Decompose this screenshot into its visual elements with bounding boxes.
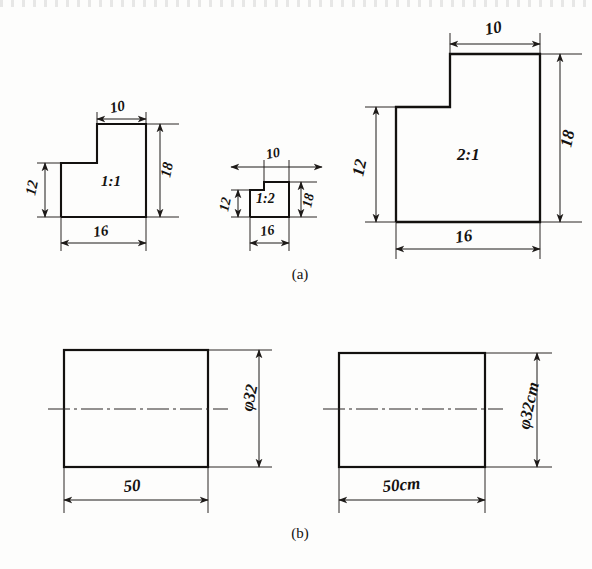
shape-outline: [61, 124, 146, 217]
scale-label-1-1: 1:1: [101, 173, 121, 189]
cylinder-body-rect: [339, 353, 485, 467]
dimension-lines: [64, 350, 259, 500]
dimension-label-diameter: φ32cm: [514, 380, 543, 431]
dimension-label-diameter: φ32: [237, 382, 261, 413]
scale-label-2-1: 2:1: [456, 145, 480, 164]
panel-caption-a: (a): [292, 266, 309, 283]
dimension-label-length: 50cm: [382, 474, 421, 496]
cylinder-with-units: φ32cm 50cm: [323, 353, 552, 513]
dimension-label-height-right: 18: [157, 160, 176, 178]
shape-scale-1-1: 10 12 18 16 1:1: [22, 97, 179, 251]
dimension-label-height-left: 12: [22, 178, 41, 196]
shape-scale-2-1: 10 12 18 16 2:1: [348, 17, 582, 259]
scale-label-1-2: 1:2: [256, 191, 275, 206]
technical-drawing-canvas: 10 12 18 16 1:1: [0, 0, 592, 569]
dimension-label-height-right: 18: [556, 128, 578, 149]
dimension-lines: [339, 353, 537, 500]
dimension-label-width-top: 10: [483, 17, 504, 39]
shape-scale-1-2: 10 12 18 16 1:2: [216, 145, 322, 251]
dimension-label-width-bottom: 16: [259, 222, 275, 239]
panel-a: 10 12 18 16 1:1: [22, 17, 582, 283]
panel-caption-b: (b): [291, 525, 309, 542]
dimension-label-width-top: 10: [109, 97, 127, 116]
cylinder-no-units: φ32 50: [48, 350, 272, 513]
dimension-label-width-bottom: 16: [454, 226, 474, 247]
dimension-label-height-left: 12: [216, 196, 234, 213]
extension-lines: [339, 353, 552, 513]
extension-lines: [64, 350, 272, 513]
dimension-label-width-top: 10: [265, 145, 282, 162]
drawing-sheet: 10 12 18 16 1:1: [0, 0, 592, 569]
shape-outline: [396, 54, 540, 222]
dimension-label-width-bottom: 16: [92, 222, 110, 240]
panel-b: φ32 50 φ32cm 50cm (b: [48, 350, 552, 542]
dimension-label-height-left: 12: [348, 157, 370, 178]
dimension-label-length: 50: [123, 476, 142, 496]
dimension-label-height-right: 18: [299, 192, 317, 209]
